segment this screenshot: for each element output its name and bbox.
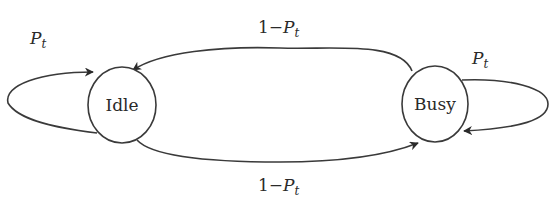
state-idle: Idle (88, 67, 156, 143)
label-busy-self-loop: Pt (471, 48, 488, 71)
label-busy-to-idle: 1−Pt (258, 17, 300, 40)
busy-label: Busy (414, 94, 456, 114)
state-busy: Busy (402, 66, 468, 142)
edge-busy-self-loop (462, 80, 548, 131)
label-idle-to-busy: 1−Pt (258, 175, 300, 198)
edge-busy-to-idle (133, 48, 412, 71)
edge-idle-to-busy (137, 140, 418, 162)
idle-label: Idle (105, 95, 138, 115)
edge-idle-self-loop (8, 72, 97, 133)
label-idle-self-loop: Pt (29, 28, 46, 51)
state-diagram: Idle Busy Pt Pt 1−Pt 1−Pt (0, 0, 553, 210)
